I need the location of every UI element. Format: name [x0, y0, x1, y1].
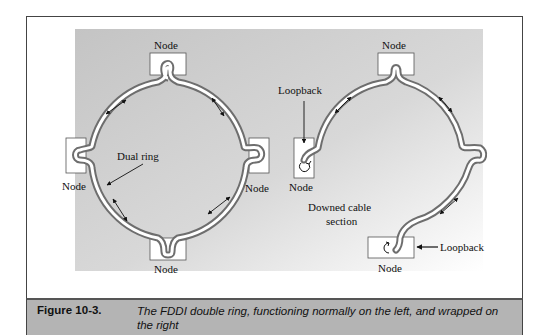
node-label: Node: [154, 263, 178, 275]
fddi-diagram: Node Node Node Node Dual ring Node Loopb…: [0, 0, 552, 300]
figure-caption: Figure 10-3. The FDDI double ring, funct…: [26, 298, 523, 335]
dual-ring-label: Dual ring: [117, 150, 159, 162]
node-label: Node: [245, 182, 269, 194]
node-label: Node: [154, 39, 178, 51]
node-label: Node: [289, 181, 313, 193]
node-loopback-bottom: [368, 237, 414, 258]
node-label: Node: [378, 262, 402, 274]
figure-number: Figure 10-3.: [37, 304, 102, 316]
figure-caption-text: The FDDI double ring, functioning normal…: [137, 304, 517, 332]
downed-cable-label: section: [326, 215, 358, 227]
node-label: Node: [382, 39, 406, 51]
loopback-label: Loopback: [440, 241, 484, 253]
loopback-label: Loopback: [278, 84, 322, 96]
node-label: Node: [62, 180, 86, 192]
downed-cable-label: Downed cable: [308, 201, 371, 213]
